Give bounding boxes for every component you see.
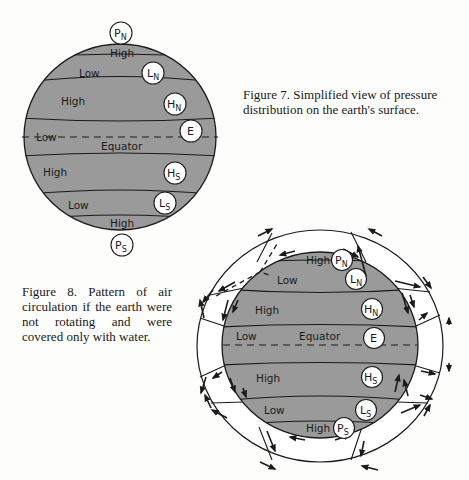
marker-ls: LS xyxy=(154,192,176,214)
figure-8-caption: Figure 8. Pattern of air circulation if … xyxy=(22,284,172,344)
figure-7-globe: High Low High Low Equator High Low High … xyxy=(20,22,220,256)
figures-canvas: High Low High Low Equator High Low High … xyxy=(0,0,469,480)
label-high-north-top: High xyxy=(306,254,330,266)
marker-pn: PN xyxy=(110,22,132,44)
marker-hs: HS xyxy=(362,367,383,388)
marker-hn: HN xyxy=(164,93,186,115)
label-low-equator: Low xyxy=(236,330,257,342)
label-low-south: Low xyxy=(264,404,285,416)
label-low-equator: Low xyxy=(36,131,57,143)
marker-hs: HS xyxy=(164,162,186,184)
label-high-south-bottom: High xyxy=(110,217,134,229)
figure-7-caption: Figure 7. Simplified view of pressure di… xyxy=(243,87,468,117)
label-high-north: High xyxy=(61,95,85,107)
label-high-south-bottom: High xyxy=(306,422,330,434)
figure-8-globe: High Low High Low Equator High Low High … xyxy=(197,229,449,470)
marker-ps: PS xyxy=(334,418,355,439)
label-low-north: Low xyxy=(277,274,298,286)
marker-e: E xyxy=(364,328,385,349)
marker-ln: LN xyxy=(346,269,367,290)
svg-text:E: E xyxy=(187,125,194,138)
marker-pn: PN xyxy=(332,250,353,271)
label-low-south: Low xyxy=(68,199,89,211)
marker-ps: PS xyxy=(111,234,133,256)
label-high-south: High xyxy=(43,166,67,178)
label-low-north: Low xyxy=(79,67,100,79)
svg-text:E: E xyxy=(370,332,377,345)
marker-hn: HN xyxy=(362,299,383,320)
marker-ls: LS xyxy=(356,400,377,421)
label-high-north: High xyxy=(255,304,279,316)
label-high-south: High xyxy=(256,372,280,384)
label-high-north-top: High xyxy=(110,47,134,59)
marker-e: E xyxy=(180,120,202,142)
label-equator: Equator xyxy=(101,140,143,152)
marker-ln: LN xyxy=(142,62,164,84)
label-equator: Equator xyxy=(299,330,341,342)
